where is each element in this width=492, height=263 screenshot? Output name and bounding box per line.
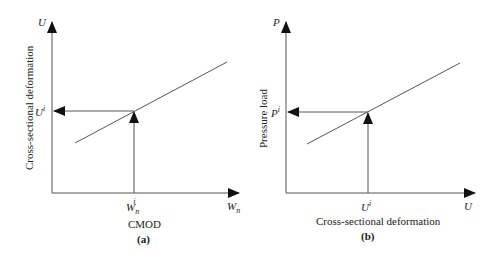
y-axis-label-b: Pressure load bbox=[257, 89, 269, 148]
x-marker-b: Ui bbox=[361, 199, 371, 213]
x-axis-symbol-a: Wn bbox=[227, 200, 240, 215]
panel-a bbox=[52, 22, 239, 193]
y-axis-symbol-a: U bbox=[38, 16, 46, 28]
x-marker-a: Wni bbox=[126, 199, 141, 216]
relation-line-b bbox=[307, 63, 460, 144]
relation-line-a bbox=[75, 62, 227, 143]
caption-b: (b) bbox=[361, 230, 374, 242]
y-axis-label-a: Cross-sectional deformation bbox=[23, 46, 35, 170]
x-axis-symbol-b: U bbox=[464, 200, 472, 212]
y-marker-a: Ui bbox=[35, 104, 45, 118]
x-axis-label-a: CMOD bbox=[128, 218, 161, 230]
x-axis-label-b: Cross-sectional deformation bbox=[316, 215, 440, 227]
caption-a: (a) bbox=[137, 233, 150, 245]
panel-b bbox=[286, 22, 475, 193]
y-axis-symbol-b: P bbox=[273, 16, 280, 28]
y-marker-b: Pi bbox=[271, 105, 280, 119]
